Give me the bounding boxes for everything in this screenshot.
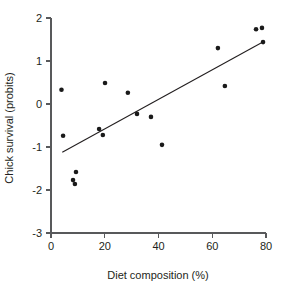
x-tick-label: 20: [99, 240, 111, 252]
scatter-plot: 020406080 210-1-2-3 Diet composition (%)…: [0, 0, 284, 287]
y-tick-label: 1: [36, 55, 42, 67]
x-tick-labels: 020406080: [48, 240, 272, 252]
data-point: [97, 127, 102, 132]
y-tick-label: -1: [32, 141, 42, 153]
axes: [51, 18, 266, 233]
regression-line: [62, 42, 263, 153]
data-point: [135, 112, 140, 117]
y-axis-title: Chick survival (probits): [3, 72, 15, 183]
data-points: [59, 26, 265, 187]
data-point: [74, 170, 79, 175]
x-tick-label: 40: [152, 240, 164, 252]
data-point: [254, 27, 259, 32]
y-tick-label: -3: [32, 227, 42, 239]
y-tick-label: 2: [36, 12, 42, 24]
tick-marks: [46, 18, 266, 238]
data-point: [61, 134, 66, 139]
data-point: [260, 26, 265, 31]
y-tick-label: 0: [36, 98, 42, 110]
data-point: [216, 46, 221, 51]
data-point: [101, 133, 106, 138]
y-tick-labels: 210-1-2-3: [32, 12, 42, 239]
data-point: [126, 91, 131, 96]
x-tick-label: 60: [206, 240, 218, 252]
data-point: [73, 182, 78, 187]
data-point: [261, 40, 266, 45]
data-point: [59, 88, 64, 93]
y-tick-label: -2: [32, 184, 42, 196]
chart-container: 020406080 210-1-2-3 Diet composition (%)…: [0, 0, 284, 287]
data-point: [103, 81, 108, 86]
data-point: [149, 115, 154, 120]
data-point: [223, 84, 228, 89]
x-tick-label: 80: [260, 240, 272, 252]
x-tick-label: 0: [48, 240, 54, 252]
data-point: [160, 143, 165, 148]
x-axis-title: Diet composition (%): [107, 269, 208, 281]
